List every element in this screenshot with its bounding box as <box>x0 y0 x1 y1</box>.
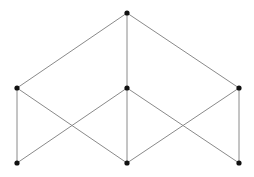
node-bottom-left <box>14 160 19 165</box>
node-mid-left <box>14 85 19 90</box>
edge-top-mid-left <box>17 13 127 88</box>
node-bottom-center <box>124 160 129 165</box>
node-mid-center <box>124 85 129 90</box>
node-bottom-right <box>236 160 241 165</box>
hasse-diagram <box>0 0 254 177</box>
node-mid-right <box>236 85 241 90</box>
edge-top-mid-right <box>127 13 239 88</box>
node-top <box>124 10 129 15</box>
